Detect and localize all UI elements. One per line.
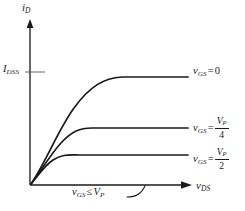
y-axis-arrowhead: [27, 19, 34, 28]
curve-label-2-numerator-subscript: P: [223, 151, 227, 158]
curve-label-1-numerator: VP: [215, 116, 229, 127]
curve-label-2-denominator: 2: [215, 161, 229, 171]
y-axis-label-subscript: D: [25, 6, 31, 15]
curve-label-2-fraction: VP2: [215, 147, 229, 171]
curve-vgs-0: [31, 77, 188, 184]
curve-label-1-fraction: VP4: [215, 116, 229, 140]
curve-label-1-relation: =: [207, 122, 215, 133]
cutoff-label-subscript: GS: [77, 191, 86, 199]
y-axis-label: iD: [22, 2, 31, 14]
cutoff-leader-line: [127, 186, 145, 197]
jfet-drain-characteristics-figure: iD vDS IDSS vGS=0 vGS=VP4 vGS=VP2 vGS≤VP: [0, 0, 245, 211]
curve-label-2-numerator: VP: [215, 147, 229, 158]
curve-label-0-relation: =: [207, 65, 215, 76]
cutoff-label-value-subscript: P: [100, 191, 105, 199]
curve-label-1-subscript: GS: [198, 127, 207, 135]
cutoff-annotation-label: vGS≤VP: [72, 187, 105, 199]
cutoff-label-relation: ≤: [86, 186, 94, 197]
curve-vgs-vp-over-4: [31, 128, 188, 184]
curve-label-vgs-0: vGS=0: [193, 66, 220, 78]
curve-label-1-numerator-subscript: P: [223, 120, 227, 127]
curve-label-2-subscript: GS: [198, 158, 207, 166]
x-axis-arrowhead: [181, 181, 192, 189]
curve-label-0-subscript: GS: [198, 70, 207, 78]
curve-label-vgs-vp-over-4: vGS=VP4: [193, 117, 229, 141]
curve-vgs-vp-over-2: [31, 155, 188, 184]
x-axis-label-subscript: DS: [201, 184, 211, 193]
curve-label-vgs-vp-over-2: vGS=VP2: [193, 148, 229, 172]
curve-label-1-denominator: 4: [215, 130, 229, 140]
curve-label-2-relation: =: [207, 153, 215, 164]
x-axis-label: vDS: [196, 180, 210, 192]
idss-tick-label: IDSS: [3, 64, 19, 76]
curve-label-0-value: 0: [215, 65, 220, 76]
idss-label-subscript: DSS: [7, 68, 20, 76]
